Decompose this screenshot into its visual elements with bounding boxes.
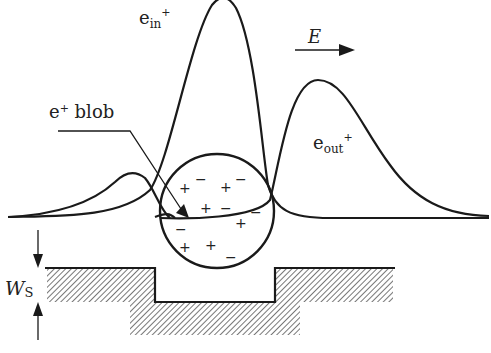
negative-charge: − [175, 222, 187, 236]
e-in-sub: in [150, 17, 162, 31]
e-in-sup: + [161, 6, 170, 19]
blob-sup: + [60, 102, 69, 115]
label-e-out: eout+ [313, 131, 353, 156]
ws-dimension-arrows [33, 230, 43, 340]
e-out-sup: + [343, 131, 352, 144]
label-e-in: ein+ [139, 6, 170, 31]
positive-charge: + [235, 216, 247, 230]
ws-base: W [5, 277, 25, 299]
blob-rest: blob [69, 101, 114, 122]
e-out-sub: out [324, 142, 344, 156]
e-in-base: e [139, 7, 150, 28]
negative-charge: − [220, 201, 232, 215]
label-blob: e+ blob [49, 101, 114, 122]
positive-charge: + [220, 180, 232, 194]
positive-charge: + [200, 201, 212, 215]
ws-sub: S [25, 285, 34, 300]
negative-charge: − [195, 172, 207, 186]
positive-charge: + [205, 238, 217, 252]
field-arrow [295, 44, 355, 56]
negative-charge: − [225, 250, 237, 264]
e-out-base: e [313, 132, 324, 153]
positive-charge: + [179, 181, 191, 195]
negative-charge: − [250, 205, 262, 219]
positive-charge: + [179, 240, 191, 254]
negative-charge: − [235, 172, 247, 186]
label-ws: WS [5, 277, 33, 300]
blob-base: e [49, 101, 60, 122]
label-field-e: E [308, 26, 321, 47]
substrate [45, 268, 395, 335]
